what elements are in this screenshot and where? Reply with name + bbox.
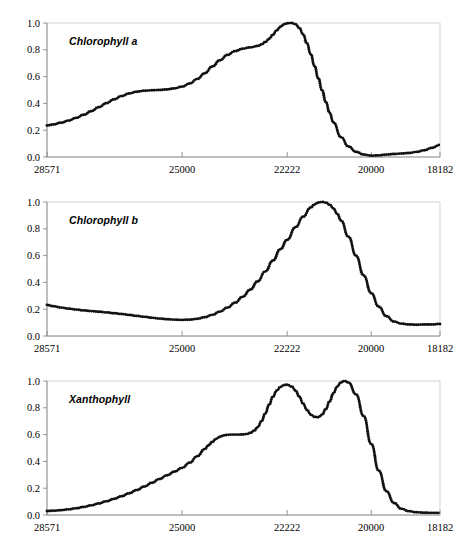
y-tick-label: 0.2 bbox=[27, 304, 40, 315]
x-tick-label: 28571 bbox=[34, 522, 60, 533]
y-tick-label: 0.2 bbox=[27, 125, 40, 136]
panel-chlorophyll-b: 0.00.20.40.60.81.02857125000222222000018… bbox=[0, 179, 471, 358]
y-tick-label: 1.0 bbox=[27, 376, 40, 387]
x-tick-label: 25000 bbox=[169, 164, 195, 175]
x-tick-label: 20000 bbox=[358, 343, 384, 354]
series-title-label: Chlorophyll a bbox=[69, 35, 137, 47]
x-tick-label: 20000 bbox=[358, 164, 384, 175]
x-tick-label: 20000 bbox=[358, 522, 384, 533]
x-tick-label: 18182 bbox=[427, 343, 453, 354]
y-tick-label: 0.0 bbox=[27, 331, 40, 342]
y-tick-label: 0.4 bbox=[27, 98, 41, 109]
y-tick-label: 0.4 bbox=[27, 456, 41, 467]
x-tick-label: 18182 bbox=[427, 522, 453, 533]
x-tick-label: 28571 bbox=[34, 164, 60, 175]
x-tick-label: 18182 bbox=[427, 164, 453, 175]
y-tick-label: 0.8 bbox=[27, 44, 40, 55]
y-tick-label: 0.0 bbox=[27, 152, 40, 163]
figure-root: 0.00.20.40.60.81.02857125000222222000018… bbox=[0, 0, 471, 537]
chart-chlorophyll-a: 0.00.20.40.60.81.02857125000222222000018… bbox=[0, 0, 471, 179]
x-tick-label: 22222 bbox=[274, 164, 300, 175]
panel-xanthophyll: 0.00.20.40.60.81.02857125000222222000018… bbox=[0, 358, 471, 537]
x-tick-label: 28571 bbox=[34, 343, 60, 354]
x-tick-label: 22222 bbox=[274, 343, 300, 354]
y-tick-label: 1.0 bbox=[27, 18, 40, 29]
panel-chlorophyll-a: 0.00.20.40.60.81.02857125000222222000018… bbox=[0, 0, 471, 179]
y-tick-label: 1.0 bbox=[27, 197, 40, 208]
y-tick-label: 0.6 bbox=[27, 71, 40, 82]
y-tick-label: 0.6 bbox=[27, 250, 40, 261]
x-tick-label: 22222 bbox=[274, 522, 300, 533]
x-tick-label: 25000 bbox=[169, 522, 195, 533]
chart-xanthophyll: 0.00.20.40.60.81.02857125000222222000018… bbox=[0, 358, 471, 537]
y-tick-label: 0.6 bbox=[27, 429, 40, 440]
y-tick-label: 0.4 bbox=[27, 277, 41, 288]
series-title-label: Chlorophyll b bbox=[69, 214, 138, 226]
x-tick-label: 25000 bbox=[169, 343, 195, 354]
y-tick-label: 0.0 bbox=[27, 510, 40, 521]
y-tick-label: 0.8 bbox=[27, 223, 40, 234]
series-title-label: Xanthophyll bbox=[68, 393, 131, 405]
y-tick-label: 0.2 bbox=[27, 483, 40, 494]
y-tick-label: 0.8 bbox=[27, 402, 40, 413]
chart-chlorophyll-b: 0.00.20.40.60.81.02857125000222222000018… bbox=[0, 179, 471, 358]
